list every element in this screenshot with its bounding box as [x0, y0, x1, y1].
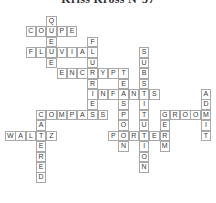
crossword-cell: P — [67, 110, 78, 121]
crossword-cell: O — [180, 110, 191, 121]
crossword-cell: N — [118, 141, 129, 152]
crossword-cell: P — [108, 68, 119, 79]
crossword-cell: T — [201, 131, 212, 142]
crossword-cell: C — [36, 110, 47, 121]
crossword-cell: S — [118, 99, 129, 110]
crossword-cell: A — [77, 110, 88, 121]
crossword-cell: A — [118, 89, 129, 100]
crossword-cell: O — [36, 26, 47, 37]
crossword-cell: P — [57, 26, 68, 37]
crossword-cell: E — [149, 131, 160, 142]
crossword-cell: P — [118, 110, 129, 121]
crossword-cell: B — [139, 68, 150, 79]
crossword-cell: L — [36, 47, 47, 58]
crossword-cell: Z — [46, 131, 57, 142]
crossword-cell: S — [139, 47, 150, 58]
crossword-cell: E — [57, 68, 68, 79]
crossword-cell: C — [77, 68, 88, 79]
crossword-cell: O — [139, 152, 150, 163]
crossword-cell: F — [87, 37, 98, 48]
crossword-cell: M — [160, 141, 171, 152]
crossword-cell: F — [108, 89, 119, 100]
crossword-cell: A — [77, 47, 88, 58]
crossword-cell: T — [139, 89, 150, 100]
crossword-cell: O — [118, 131, 129, 142]
crossword-cell: E — [87, 99, 98, 110]
crossword-cell: A — [15, 131, 26, 142]
crossword-cell: U — [139, 58, 150, 69]
crossword-cell: U — [46, 26, 57, 37]
crossword-cell: Y — [98, 68, 109, 79]
crossword-cell: I — [139, 99, 150, 110]
crossword-cell: M — [57, 110, 68, 121]
crossword-cell: Q — [46, 16, 57, 27]
crossword-cell: E — [118, 79, 129, 90]
crossword-cell: I — [139, 141, 150, 152]
crossword-cell: E — [67, 26, 78, 37]
crossword-cell: L — [26, 131, 37, 142]
crossword-grid: QUEUECOPEFLVIALFURRIESENCYPTEASPOONNFNTS… — [0, 0, 216, 203]
crossword-cell: N — [139, 162, 150, 173]
crossword-cell: U — [46, 47, 57, 58]
crossword-cell: S — [87, 110, 98, 121]
crossword-cell: O — [118, 120, 129, 131]
crossword-cell: E — [36, 162, 47, 173]
crossword-cell: I — [87, 89, 98, 100]
crossword-cell: E — [46, 58, 57, 69]
crossword-cell: N — [98, 89, 109, 100]
crossword-cell: E — [160, 120, 171, 131]
crossword-cell: C — [26, 26, 37, 37]
crossword-cell: W — [5, 131, 16, 142]
crossword-cell: D — [201, 99, 212, 110]
crossword-cell: F — [26, 47, 37, 58]
crossword-cell: R — [36, 152, 47, 163]
crossword-cell: E — [46, 37, 57, 48]
crossword-cell: S — [139, 79, 150, 90]
crossword-cell: S — [149, 89, 160, 100]
crossword-cell: A — [36, 120, 47, 131]
crossword-cell: U — [139, 120, 150, 131]
crossword-cell: R — [87, 79, 98, 90]
crossword-cell: R — [129, 131, 140, 142]
crossword-cell: D — [36, 172, 47, 183]
crossword-cell: S — [98, 110, 109, 121]
crossword-cell: P — [108, 131, 119, 142]
crossword-cell: E — [36, 141, 47, 152]
crossword-cell: U — [87, 58, 98, 69]
crossword-cell: N — [129, 89, 140, 100]
crossword-cell: T — [118, 68, 129, 79]
crossword-cell: G — [160, 110, 171, 121]
crossword-cell: O — [190, 110, 201, 121]
crossword-cell: T — [139, 110, 150, 121]
crossword-cell: A — [201, 89, 212, 100]
crossword-cell: R — [160, 131, 171, 142]
crossword-cell: T — [139, 131, 150, 142]
crossword-cell: L — [87, 47, 98, 58]
crossword-cell: R — [170, 110, 181, 121]
crossword-cell: V — [57, 47, 68, 58]
crossword-cell: O — [46, 110, 57, 121]
crossword-cell: M — [201, 110, 212, 121]
crossword-cell: I — [201, 120, 212, 131]
crossword-cell: N — [67, 68, 78, 79]
crossword-cell: R — [87, 68, 98, 79]
crossword-cell: T — [36, 131, 47, 142]
crossword-cell: I — [67, 47, 78, 58]
